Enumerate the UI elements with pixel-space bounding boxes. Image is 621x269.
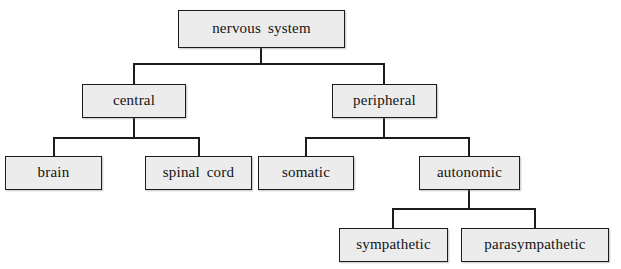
connector-peripheral-bus <box>305 137 470 139</box>
connector-peripheral-stem <box>383 118 385 138</box>
node-label-central: central <box>113 93 155 109</box>
connector-central-bus <box>53 137 200 139</box>
connector-autonomic-bus <box>392 208 536 210</box>
node-peripheral[interactable]: peripheral <box>332 84 437 118</box>
node-brain[interactable]: brain <box>5 156 102 190</box>
node-autonomic[interactable]: autonomic <box>419 156 520 190</box>
node-parasympathetic[interactable]: parasympathetic <box>461 228 609 262</box>
node-label-peripheral: peripheral <box>353 93 416 109</box>
connector-autonomic-stem <box>468 190 470 209</box>
node-label-brain: brain <box>38 165 70 181</box>
node-somatic[interactable]: somatic <box>258 156 354 190</box>
node-label-spinal-cord: spinal cord <box>163 165 234 181</box>
connector-peripheral-riser <box>383 63 385 85</box>
connector-somatic-riser <box>305 137 307 157</box>
connector-sympathetic-riser <box>392 208 394 229</box>
connector-central-stem <box>133 118 135 138</box>
node-label-somatic: somatic <box>282 165 330 181</box>
node-label-autonomic: autonomic <box>437 165 502 181</box>
node-nervous-system[interactable]: nervous system <box>178 10 345 48</box>
node-label-parasympathetic: parasympathetic <box>484 237 585 253</box>
node-central[interactable]: central <box>82 84 186 118</box>
connector-root-stem <box>260 48 262 64</box>
connector-parasym-riser <box>534 208 536 229</box>
node-label-nervous-system: nervous system <box>212 21 311 37</box>
connector-brain-riser <box>53 137 55 157</box>
connector-autonomic-riser <box>468 137 470 157</box>
nervous-system-diagram: nervous systemcentralperipheralbrainspin… <box>0 0 621 269</box>
connector-spinal-riser <box>198 137 200 157</box>
node-sympathetic[interactable]: sympathetic <box>339 228 448 262</box>
node-spinal-cord[interactable]: spinal cord <box>145 156 252 190</box>
connector-root-bus <box>133 63 385 65</box>
node-label-sympathetic: sympathetic <box>356 237 431 253</box>
connector-central-riser <box>133 63 135 85</box>
